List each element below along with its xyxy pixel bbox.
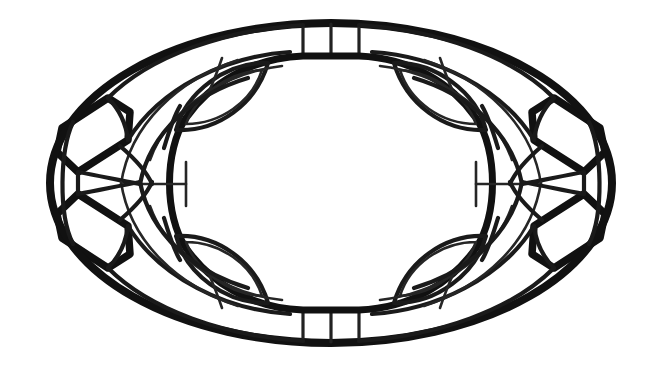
illustration-canvas: oval woven basket viewed from above [0,0,662,378]
line-art-drawing [0,0,662,378]
